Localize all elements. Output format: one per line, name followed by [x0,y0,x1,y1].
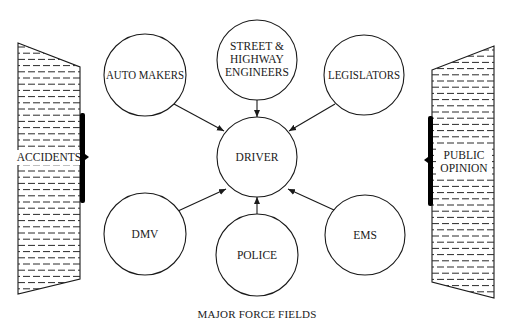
public-opinion-force-arrow-icon [424,157,428,163]
accidents-force-bar [80,113,85,203]
diagram-caption: MAJOR FORCE FIELDS [197,308,316,320]
arrow-dmv-to-driver [178,189,226,211]
node-police: POLICE [216,214,298,296]
arrow-ems-to-driver [288,189,334,210]
arrow-legislators-to-driver [289,104,335,131]
accidents-trapezoid [18,43,80,294]
node-driver: DRIVER [217,117,297,197]
side-field-public-opinion: PUBLIC OPINION [424,46,494,298]
node-legislators: LEGISLATORS [324,35,404,115]
public-opinion-force-bar [428,116,433,206]
node-ems: EMS [325,195,405,275]
force-field-diagram: ACCIDENTS PUBLIC OPINION AUTO MAKERS STR… [0,0,509,329]
legislators-label: LEGISLATORS [328,69,400,81]
auto-makers-label: AUTO MAKERS [106,69,184,81]
node-dmv: DMV [104,193,186,275]
side-field-accidents: ACCIDENTS [10,43,89,294]
ems-label: EMS [353,229,377,241]
accidents-label: ACCIDENTS [17,151,82,163]
dmv-label: DMV [132,228,160,240]
street-highway-engineers-label-line2: HIGHWAY [230,53,285,65]
street-highway-engineers-label-line3: ENGINEERS [225,66,289,78]
public-opinion-label-line1: PUBLIC [444,149,485,161]
arrow-auto-makers-to-driver [174,104,224,131]
node-street-highway-engineers: STREET & HIGHWAY ENGINEERS [217,20,297,100]
public-opinion-label-line2: OPINION [440,162,488,174]
police-label: POLICE [237,249,277,261]
driver-label: DRIVER [236,151,279,163]
node-auto-makers: AUTO MAKERS [104,34,186,116]
street-highway-engineers-label-line1: STREET & [230,40,284,52]
